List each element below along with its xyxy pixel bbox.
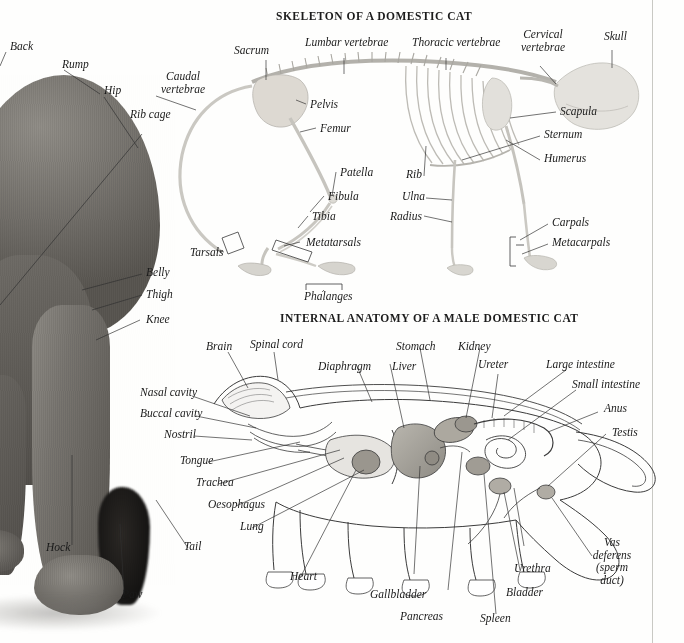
skeleton-label-thoracic-vertebrae: Thoracic vertebrae <box>412 36 500 49</box>
caudal-line1: Caudal <box>166 70 200 82</box>
internal-label-ureter: Ureter <box>478 358 508 371</box>
skeleton-label-rib: Rib <box>406 168 422 181</box>
photo-label-tail: Tail <box>184 540 201 553</box>
anatomy-page: SKELETON OF A DOMESTIC CAT INTERNAL ANAT… <box>0 0 684 643</box>
skeleton-label-radius: Radius <box>390 210 422 223</box>
photo-label-back: Back <box>10 40 33 53</box>
internal-label-anus: Anus <box>604 402 627 415</box>
vas-line2: deferens <box>593 549 632 561</box>
vas-line4: duct) <box>600 574 624 586</box>
internal-label-small-intestine: Small intestine <box>572 378 640 391</box>
skeleton-section-title: SKELETON OF A DOMESTIC CAT <box>276 10 472 22</box>
internal-label-spinal-cord: Spinal cord <box>250 338 303 351</box>
skeleton-label-ulna: Ulna <box>402 190 425 203</box>
photo-label-rib-cage: Rib cage <box>130 108 171 121</box>
photo-label-knee: Knee <box>146 313 170 326</box>
photo-label-paw: Paw <box>122 588 142 601</box>
skeleton-label-metatarsals: Metatarsals <box>306 236 361 249</box>
skeleton-brackets <box>222 232 524 290</box>
photo-label-belly: Belly <box>146 266 170 279</box>
photo-grain <box>0 75 175 585</box>
photo-label-thigh: Thigh <box>146 288 173 301</box>
internal-label-nasal-cavity: Nasal cavity <box>140 386 197 399</box>
cervical-line2: vertebrae <box>521 41 565 53</box>
internal-label-lung: Lung <box>240 520 264 533</box>
internal-label-trachea: Trachea <box>196 476 234 489</box>
internal-label-large-intestine: Large intestine <box>546 358 615 371</box>
skeleton-label-skull: Skull <box>604 30 627 43</box>
photo-label-rump: Rump <box>62 58 89 71</box>
skeleton-label-femur: Femur <box>320 122 351 135</box>
internal-label-heart: Heart <box>290 570 317 583</box>
cat-photograph <box>0 75 175 585</box>
skeleton-label-pelvis: Pelvis <box>310 98 338 111</box>
internal-label-brain: Brain <box>206 340 232 353</box>
skeleton-label-sacrum: Sacrum <box>234 44 269 57</box>
vas-line1: Vas <box>604 536 620 548</box>
internal-label-buccal-cavity: Buccal cavity <box>140 407 202 420</box>
photo-label-hock: Hock <box>46 541 70 554</box>
internal-label-diaphragm: Diaphragm <box>318 360 371 373</box>
internal-label-bladder: Bladder <box>506 586 543 599</box>
internal-label-stomach: Stomach <box>396 340 436 353</box>
page-rule <box>652 0 653 643</box>
internal-label-liver: Liver <box>392 360 416 373</box>
skeleton-label-caudal-vertebrae: Caudal vertebrae <box>150 70 216 95</box>
skeleton-label-phalanges: Phalanges <box>304 290 353 303</box>
skeleton-label-cervical-vertebrae: Cervical vertebrae <box>512 28 574 53</box>
skeleton-label-scapula: Scapula <box>560 105 597 118</box>
internal-label-kidney: Kidney <box>458 340 491 353</box>
skeleton-label-tarsals: Tarsals <box>190 246 223 259</box>
skeleton-label-sternum: Sternum <box>544 128 582 141</box>
cervical-line1: Cervical <box>523 28 563 40</box>
internal-label-spleen: Spleen <box>480 612 511 625</box>
internal-label-urethra: Urethra <box>514 562 551 575</box>
skeleton-label-carpals: Carpals <box>552 216 589 229</box>
skeleton-label-humerus: Humerus <box>544 152 586 165</box>
internal-label-oesophagus: Oesophagus <box>208 498 265 511</box>
internal-label-pancreas: Pancreas <box>400 610 443 623</box>
skeleton-label-fibula: Fibula <box>328 190 359 203</box>
internal-label-gallbladder: Gallbladder <box>370 588 426 601</box>
skeleton-label-tibia: Tibia <box>312 210 336 223</box>
internal-label-nostril: Nostril <box>164 428 196 441</box>
internal-label-tongue: Tongue <box>180 454 213 467</box>
photo-label-hip: Hip <box>104 84 121 97</box>
skeleton-label-lumbar-vertebrae: Lumbar vertebrae <box>305 36 388 49</box>
vas-line3: (sperm <box>596 561 628 573</box>
skeleton-label-metacarpals: Metacarpals <box>552 236 610 249</box>
internal-label-testis: Testis <box>612 426 638 439</box>
internal-label-vas-deferens: Vas deferens (sperm duct) <box>586 536 638 586</box>
skeleton-label-patella: Patella <box>340 166 373 179</box>
internal-section-title: INTERNAL ANATOMY OF A MALE DOMESTIC CAT <box>280 312 579 324</box>
caudal-line2: vertebrae <box>161 83 205 95</box>
